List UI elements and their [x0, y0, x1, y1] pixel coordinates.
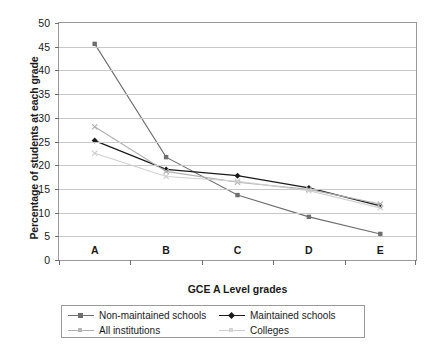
y-tick-label: 50: [22, 18, 50, 28]
gridline: [59, 213, 416, 214]
y-tick-label: 15: [22, 184, 50, 194]
series-colleges: [92, 151, 383, 211]
gridline: [59, 165, 416, 166]
legend-swatch-non-maintained-schools: [68, 310, 94, 321]
x-tick-mark: [59, 260, 60, 265]
gridline: [59, 70, 416, 71]
gridline: [59, 142, 416, 143]
x-tick-label-c: C: [218, 244, 258, 256]
x-tick-mark: [202, 260, 203, 265]
legend-swatch-maintained-schools: [219, 310, 245, 321]
x-tick-label-a: A: [75, 244, 115, 256]
x-axis-title: GCE A Level grades: [58, 283, 417, 295]
x-tick-mark: [273, 260, 274, 265]
y-tick-label: 0: [22, 255, 50, 265]
x-tick-mark: [415, 260, 416, 265]
y-tick-label: 10: [22, 208, 50, 218]
plot-area: [58, 22, 417, 261]
legend-label-2: All institutions: [99, 325, 160, 336]
legend-label-0: Non-maintained schools: [99, 310, 206, 321]
x-tick-label-b: B: [146, 244, 186, 256]
y-tick-label: 35: [22, 89, 50, 99]
gridline: [59, 47, 416, 48]
y-tick-mark: [55, 142, 59, 143]
y-tick-mark: [55, 94, 59, 95]
legend-key-marker: [228, 312, 235, 319]
chart-legend: Non-maintained schools Maintained school…: [61, 305, 365, 338]
legend-swatch-colleges: [219, 325, 245, 336]
legend-key-marker: [229, 328, 233, 332]
legend-key-marker: [78, 328, 82, 332]
legend-item-0: Non-maintained schools: [62, 308, 213, 323]
gridline: [59, 236, 416, 237]
y-tick-label: 5: [22, 231, 50, 241]
y-tick-mark: [55, 236, 59, 237]
y-tick-label: 25: [22, 137, 50, 147]
y-tick-mark: [55, 118, 59, 119]
x-tick-label-e: E: [360, 244, 400, 256]
legend-swatch-all-institutions: [68, 325, 94, 336]
figure-container: Percentage of students at each grade 051…: [0, 0, 434, 358]
y-tick-mark: [55, 165, 59, 166]
x-tick-mark: [130, 260, 131, 265]
legend-item-1: Maintained schools: [213, 308, 364, 323]
legend-item-2: All institutions: [62, 323, 213, 338]
x-tick-mark: [345, 260, 346, 265]
y-tick-label: 30: [22, 113, 50, 123]
legend-key-marker: [78, 313, 83, 318]
legend-label-3: Colleges: [250, 325, 289, 336]
y-tick-label: 20: [22, 160, 50, 170]
x-tick-label-d: D: [289, 244, 329, 256]
gridline: [59, 94, 416, 95]
y-tick-mark: [55, 70, 59, 71]
y-tick-label: 40: [22, 65, 50, 75]
y-tick-mark: [55, 189, 59, 190]
y-tick-mark: [55, 47, 59, 48]
y-tick-label: 45: [22, 42, 50, 52]
gridline: [59, 189, 416, 190]
legend-label-1: Maintained schools: [250, 310, 336, 321]
gridline: [59, 118, 416, 119]
y-tick-mark: [55, 213, 59, 214]
legend-item-3: Colleges: [213, 323, 364, 338]
y-tick-mark: [55, 23, 59, 24]
